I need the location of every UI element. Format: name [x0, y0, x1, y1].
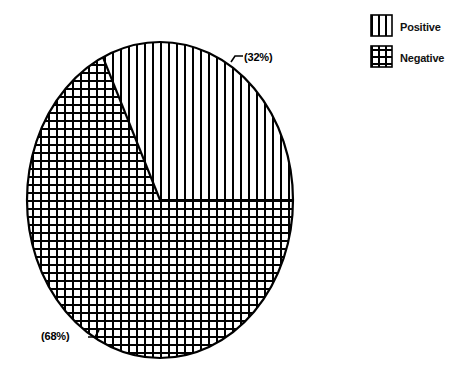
chart-canvas: (32%) (68%) Positive Negative	[0, 0, 465, 379]
crosshatch-swatch-icon	[371, 46, 392, 67]
legend-label-positive: Positive	[400, 21, 441, 33]
positive-callout-label: (32%)	[244, 51, 273, 63]
negative-callout-label: (68%)	[41, 330, 70, 342]
legend-label-negative: Negative	[400, 52, 444, 64]
pie-chart-figure: (32%) (68%) Positive Negative	[0, 0, 465, 379]
vertical-lines-swatch-icon	[371, 15, 392, 36]
